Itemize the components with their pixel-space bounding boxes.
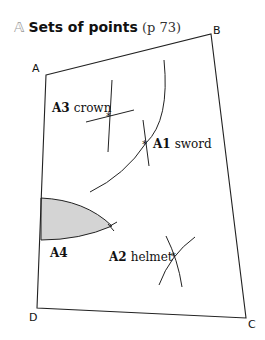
label-a3-text: crown (74, 101, 112, 115)
corner-label-b: B (213, 24, 221, 37)
corner-label-d: D (29, 311, 37, 324)
region-a4-arc-extension (110, 222, 117, 226)
quadrilateral-abcd (37, 34, 246, 318)
corner-label-a: A (32, 62, 40, 75)
label-a1-id: A1 (152, 137, 171, 151)
arc-large (90, 60, 165, 192)
label-a2-helmet: A2 helmet (108, 247, 173, 264)
label-a3-crown: A3 crown (51, 98, 112, 115)
label-a1-sword: A1 sword (152, 134, 212, 151)
label-a2-id: A2 (108, 250, 127, 264)
label-a3-id: A3 (51, 101, 70, 115)
label-a4: A4 (49, 246, 68, 260)
region-a4-shaded (41, 198, 112, 240)
label-a2-text: helmet (131, 250, 173, 264)
corner-label-c: C (248, 318, 256, 331)
diagram: * * * A B C D A3 crown A1 sword A2 helme… (0, 0, 265, 340)
label-a1-text: sword (175, 137, 212, 151)
sword-point-marker: * (142, 139, 147, 150)
